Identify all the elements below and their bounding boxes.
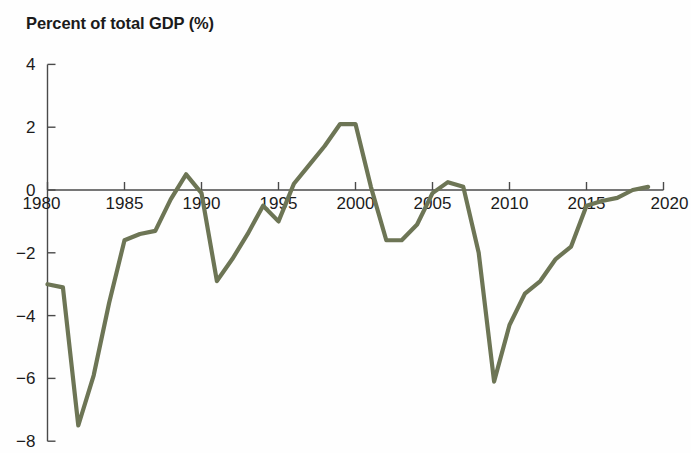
y-tick-label: −8 bbox=[16, 432, 35, 451]
x-tick-label: 2010 bbox=[491, 194, 529, 213]
x-tick-label: 2000 bbox=[337, 194, 375, 213]
x-tick-label: 1985 bbox=[106, 194, 144, 213]
x-tick-label: 1980 bbox=[23, 194, 61, 213]
series-line bbox=[48, 124, 649, 425]
x-axis: 198019851990199520002005201020152020 bbox=[23, 182, 689, 213]
x-tick-label: 2020 bbox=[651, 194, 689, 213]
y-tick-label: −6 bbox=[16, 369, 35, 388]
chart-plot-area: 420−2−4−6−8 1980198519901995200020052010… bbox=[0, 0, 691, 453]
data-series bbox=[48, 124, 649, 425]
y-axis: 420−2−4−6−8 bbox=[16, 55, 55, 451]
y-tick-label: −2 bbox=[16, 244, 35, 263]
chart-figure: Percent of total GDP (%) 420−2−4−6−8 198… bbox=[0, 0, 691, 453]
y-tick-label: 2 bbox=[26, 118, 35, 137]
y-tick-label: 4 bbox=[26, 55, 35, 74]
y-tick-label: −4 bbox=[16, 307, 35, 326]
